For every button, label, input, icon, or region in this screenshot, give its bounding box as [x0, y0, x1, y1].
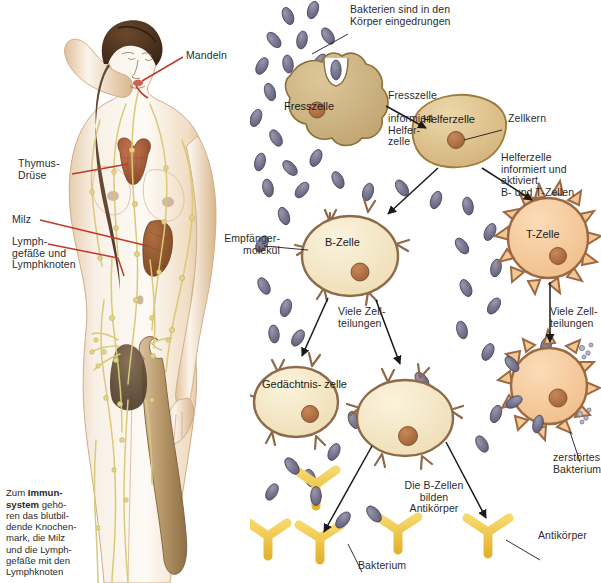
annotation-helferzelle-aktiviert: Helferzelle informiert und aktiviert B- …	[501, 152, 574, 198]
antibody	[467, 518, 509, 554]
label-milz: Milz	[12, 214, 31, 226]
immune-panel: Fresszelle Helferzelle B-Zelle T-Zelle G…	[250, 0, 601, 583]
annotation-antikoerper: Antikörper	[538, 530, 587, 542]
caption-rest: gehö- ren das blutbil- dende Knochen- ma…	[6, 499, 76, 578]
immune-system-caption: Zum Immun- system gehö- ren das blutbil-…	[6, 476, 98, 578]
label-thymus-druese: Thymus- Drüse	[18, 158, 60, 181]
antibody	[299, 509, 353, 560]
antibody	[250, 523, 287, 556]
annotation-bakterium: Bakterium	[358, 560, 406, 572]
cell-gedaechtniszelle	[250, 353, 338, 449]
annotation-viele-zellteilungen-b: Viele Zell- teilungen	[338, 306, 386, 329]
antibody	[282, 455, 336, 506]
annotation-zerstoertes-bakterium: zerstörtes Bakterium	[553, 452, 601, 475]
caption-lead: Zum	[6, 487, 28, 498]
annotation-viele-zellteilungen-t: Viele Zell- teilungen	[550, 306, 598, 329]
figure-root: Mandeln Thymus- Drüse Milz Lymph- gefäße…	[0, 0, 601, 583]
cell-label-b-zelle: B-Zelle	[325, 236, 360, 248]
annotation-bakterien-eingedrungen: Bakterien sind in den Körper eingedrunge…	[350, 4, 451, 27]
annotation-empfaengermolekuel: Empfänger- molekül	[208, 233, 280, 256]
label-mandeln: Mandeln	[186, 50, 227, 62]
cell-label-gedaechtniszelle: Gedächtnis- zelle	[262, 378, 334, 390]
cell-label-t-zelle: T-Zelle	[526, 228, 560, 240]
cell-label-fresszelle: Fresszelle	[284, 100, 334, 112]
annotation-b-zellen-bilden-antikoerper: Die B-Zellen bilden Antikörper	[394, 480, 474, 515]
cell-b-zelle	[295, 199, 409, 305]
body-panel: Mandeln Thymus- Drüse Milz Lymph- gefäße…	[0, 0, 250, 583]
annotation-zellkern: Zellkern	[508, 113, 546, 125]
label-lymphgefaesse-lymphknoten: Lymph- gefäße und Lymphknoten	[12, 236, 76, 271]
cell-plasmazelle	[347, 364, 463, 469]
annotation-fresszelle-informiert: Fresszelle informiert Helfer- zelle	[388, 90, 437, 148]
